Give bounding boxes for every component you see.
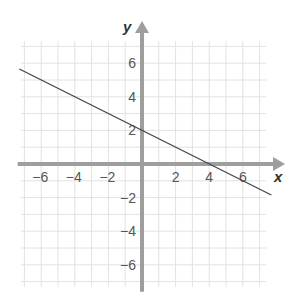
y-tick-label: 6 [128, 55, 136, 71]
x-axis-label: x [273, 168, 283, 185]
y-tick-label: 4 [128, 89, 136, 105]
y-tick-label: 2 [128, 122, 136, 138]
y-tick-label: −2 [120, 190, 136, 206]
coordinate-plane: −6−4−2246642−2−4−6 x y [0, 0, 293, 302]
y-axis-arrow-icon [135, 21, 149, 33]
data-line [19, 69, 271, 195]
x-tick-label: −6 [32, 169, 48, 185]
x-tick-label: 4 [205, 169, 213, 185]
y-tick-label: −6 [120, 257, 136, 273]
x-tick-label: 2 [172, 169, 180, 185]
x-tick-label: −4 [66, 169, 82, 185]
line-series [19, 69, 271, 195]
y-axis-label: y [122, 18, 132, 35]
y-tick-label: −4 [120, 223, 136, 239]
x-tick-label: −2 [99, 169, 115, 185]
